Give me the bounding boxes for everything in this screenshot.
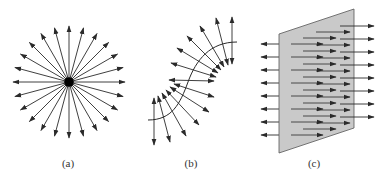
field-line-upper (169, 80, 214, 81)
radial-field-line (69, 82, 83, 136)
field-line-lower (158, 96, 170, 142)
radial-field-line (55, 28, 69, 82)
radial-field-line (15, 68, 69, 82)
field-line-lower (174, 84, 214, 97)
radial-field-line (55, 82, 69, 136)
point-charge (64, 77, 74, 87)
charged-plane (279, 9, 354, 153)
radial-field-line (15, 82, 69, 96)
panel-c-caption: (c) (294, 157, 334, 169)
electric-field-figure (0, 0, 387, 178)
panel-b-caption: (b) (171, 157, 211, 169)
radial-field-line (69, 68, 123, 82)
panel-c-flat-plane (261, 9, 374, 153)
field-line-lower (170, 87, 209, 112)
panel-a-point-charge (13, 26, 125, 138)
field-line-lower (162, 93, 186, 136)
radial-field-line (69, 82, 123, 96)
field-line-upper (216, 18, 228, 65)
panel-a-caption: (a) (48, 157, 88, 169)
radial-field-line (69, 28, 83, 82)
field-line-upper (171, 63, 216, 77)
panel-b-curved-sheet (148, 17, 237, 145)
